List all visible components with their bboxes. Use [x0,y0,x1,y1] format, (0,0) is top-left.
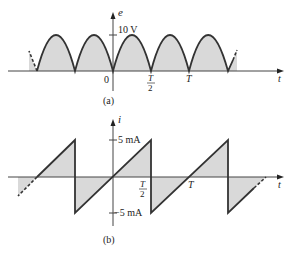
chart-a-y-label: e [118,6,123,18]
chart-b-half-period-den: 2 [140,189,145,199]
chart-a-origin-label: 0 [104,74,109,85]
chart-b-period-label: T [188,179,195,190]
chart-b-pos-label: 5 mA [118,134,141,145]
chart-a-fill [29,35,237,71]
chart-a-caption: (a) [103,95,114,107]
chart-b-caption: (b) [103,234,115,246]
chart-a-half-period-num: T [148,73,154,83]
chart-a-period-label: T [186,73,193,84]
chart-a-half-period-den: 2 [148,83,153,93]
chart-a: e 10 V 0 T 2 T t (a) [8,6,284,107]
chart-b-y-arrow-icon [111,119,116,126]
chart-a-y-arrow-icon [111,12,116,19]
chart-b-y-label: i [118,113,121,125]
chart-b-x-label: t [278,179,281,190]
figure-canvas: e 10 V 0 T 2 T t (a) i 5 mA −5 mA T 2 T [0,0,292,257]
chart-b-neg-label: −5 mA [114,207,143,218]
chart-b-half-period-num: T [140,179,146,189]
chart-a-peak-label: 10 V [118,24,138,35]
chart-b: i 5 mA −5 mA T 2 T t (b) [8,113,284,246]
chart-a-x-label: t [278,73,281,84]
